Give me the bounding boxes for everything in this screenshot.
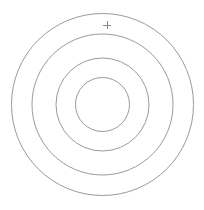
ring-outer bbox=[12, 14, 194, 196]
target-rings bbox=[12, 14, 194, 196]
ring-third bbox=[56, 58, 149, 151]
ring-second bbox=[32, 34, 173, 175]
crosshair-icon bbox=[103, 21, 111, 29]
target-canvas[interactable] bbox=[0, 0, 204, 210]
ring-inner bbox=[76, 78, 130, 132]
target-board[interactable] bbox=[0, 0, 204, 210]
